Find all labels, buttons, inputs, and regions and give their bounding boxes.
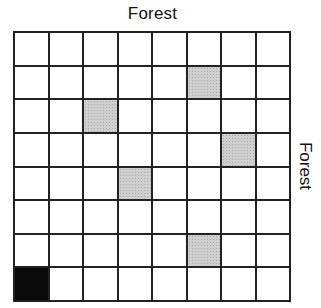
- grid-cell-white: [119, 268, 154, 302]
- grid-cell-white: [222, 67, 257, 101]
- grid-cell-white: [153, 100, 188, 134]
- grid-cell-white: [257, 235, 292, 269]
- grid-cell-white: [50, 100, 85, 134]
- grid-cell-white: [15, 67, 50, 101]
- grid-cell-white: [119, 235, 154, 269]
- grid-cell-white: [84, 168, 119, 202]
- grid-cell-white: [15, 235, 50, 269]
- grid-cell-white: [257, 268, 292, 302]
- grid-cell-white: [188, 100, 223, 134]
- grid-cell-white: [257, 67, 292, 101]
- grid-cell-white: [257, 168, 292, 202]
- grid-cell-white: [50, 134, 85, 168]
- grid-cell-white: [84, 235, 119, 269]
- grid-cell-gray: [119, 168, 154, 202]
- grid-cell-white: [222, 33, 257, 67]
- grid-cell-gray: [188, 235, 223, 269]
- grid-cell-gray: [188, 67, 223, 101]
- grid-cell-white: [15, 134, 50, 168]
- grid-cell-white: [50, 201, 85, 235]
- grid-cell-white: [153, 134, 188, 168]
- grid-cell-white: [222, 201, 257, 235]
- grid-cell-white: [119, 100, 154, 134]
- grid-cell-white: [188, 134, 223, 168]
- grid-cell-white: [222, 100, 257, 134]
- grid-cell-white: [153, 67, 188, 101]
- grid-cell-gray: [84, 100, 119, 134]
- top-edge-label: Forest: [14, 4, 291, 24]
- grid-cell-white: [84, 134, 119, 168]
- grid-cell-white: [50, 67, 85, 101]
- grid-cell-black: [15, 268, 50, 302]
- grid-cell-white: [153, 235, 188, 269]
- grid-cell-white: [50, 235, 85, 269]
- grid-cell-white: [50, 268, 85, 302]
- grid-cell-white: [153, 201, 188, 235]
- grid-cell-white: [119, 33, 154, 67]
- grid-cell-white: [15, 100, 50, 134]
- grid-cell-gray: [222, 134, 257, 168]
- grid-cell-white: [153, 33, 188, 67]
- grid-cell-white: [50, 33, 85, 67]
- grid-cell-white: [222, 168, 257, 202]
- grid-cell-white: [188, 168, 223, 202]
- map-grid: [13, 31, 291, 302]
- grid-cell-white: [188, 33, 223, 67]
- grid-cell-white: [15, 33, 50, 67]
- grid-cell-white: [188, 268, 223, 302]
- grid-cell-white: [222, 235, 257, 269]
- grid-cell-white: [15, 168, 50, 202]
- grid-cell-white: [119, 201, 154, 235]
- grid-cell-white: [119, 67, 154, 101]
- grid-cell-white: [222, 268, 257, 302]
- grid-cell-white: [257, 33, 292, 67]
- grid-cell-white: [188, 201, 223, 235]
- grid-cell-white: [119, 134, 154, 168]
- grid-cell-white: [50, 168, 85, 202]
- grid-cell-white: [84, 268, 119, 302]
- grid-cell-white: [15, 201, 50, 235]
- right-edge-label: Forest: [295, 142, 315, 190]
- grid-cell-white: [153, 168, 188, 202]
- grid-cell-white: [257, 201, 292, 235]
- grid-cell-white: [84, 67, 119, 101]
- grid-cell-white: [257, 134, 292, 168]
- grid-cell-white: [84, 201, 119, 235]
- grid-cell-white: [153, 268, 188, 302]
- grid-cell-white: [257, 100, 292, 134]
- grid-cell-white: [84, 33, 119, 67]
